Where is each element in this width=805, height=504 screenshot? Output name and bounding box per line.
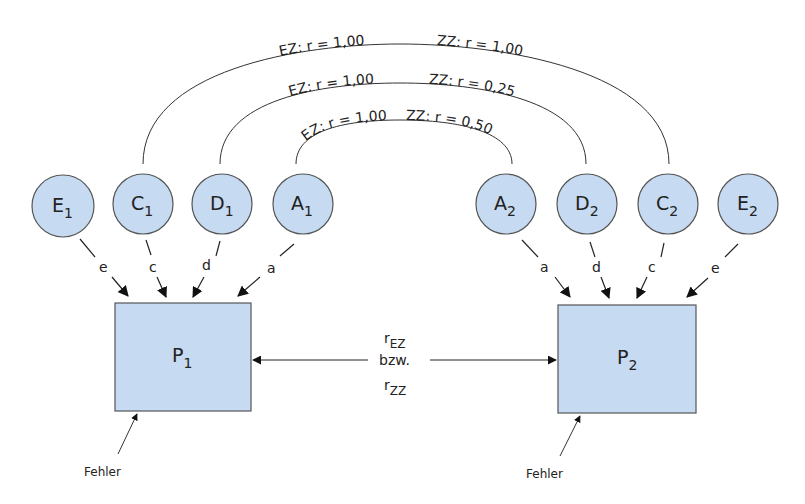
error-label-p1: Fehler — [84, 465, 121, 479]
path-label-c2: c — [648, 259, 656, 275]
error-label-p2: Fehler — [526, 467, 563, 481]
node-c2: C2 — [638, 174, 698, 234]
node-e1: E1 — [32, 175, 94, 237]
error-arrow-p2 — [560, 416, 580, 456]
twin1-path-labels: e c d a — [99, 257, 276, 276]
error-arrow-p1 — [118, 414, 137, 454]
arc-d-zz-label: ZZ: r = 0,25 — [429, 71, 517, 100]
svg-text:rEZ: rEZ — [384, 330, 406, 351]
correlation-arc-c: EZ: r = 1,00 ZZ: r = 1,00 — [143, 32, 669, 164]
ace-twin-model-diagram: EZ: r = 1,00 ZZ: r = 1,00 EZ: r = 1,00 Z… — [0, 0, 805, 504]
node-c1: C1 — [113, 174, 173, 234]
svg-text:bzw.: bzw. — [379, 352, 410, 368]
arc-a-ez-label: EZ: r = 1,00 — [298, 107, 387, 143]
phenotype-box-p1: P1 — [115, 303, 251, 411]
path-label-c1: c — [149, 259, 157, 275]
twin2-path-labels: a d c e — [540, 259, 720, 276]
twin1-paths — [80, 239, 294, 297]
correlation-arc-a: EZ: r = 1,00 ZZ: r = 0,50 — [296, 107, 512, 164]
node-a2: A2 — [476, 174, 536, 234]
arc-d-ez-label: EZ: r = 1,00 — [287, 71, 375, 100]
path-label-e1: e — [99, 259, 108, 275]
node-d1: D1 — [192, 174, 252, 234]
arc-a-zz-label: ZZ: r = 0,50 — [406, 107, 495, 137]
arc-c-ez-label: EZ: r = 1,00 — [278, 32, 365, 59]
path-label-a1: a — [267, 260, 276, 276]
path-label-e2: e — [711, 260, 720, 276]
svg-text:rZZ: rZZ — [384, 377, 406, 398]
path-label-d2: d — [592, 259, 601, 275]
correlation-arc-d: EZ: r = 1,00 ZZ: r = 0,25 — [220, 71, 586, 164]
correlation-label: rEZ bzw. rZZ — [379, 330, 410, 398]
path-label-a2: a — [540, 259, 549, 275]
twin2-paths — [522, 240, 738, 298]
node-a1: A1 — [273, 174, 333, 234]
twin2-nodes: A2 D2 C2 E2 — [476, 174, 778, 234]
arc-c-zz-label: ZZ: r = 1,00 — [436, 32, 524, 59]
twin1-nodes: E1 C1 D1 A1 — [32, 174, 333, 237]
node-d2: D2 — [557, 174, 617, 234]
path-label-d1: d — [202, 257, 211, 273]
phenotype-box-p2: P2 — [558, 305, 696, 413]
node-e2: E2 — [718, 174, 778, 234]
